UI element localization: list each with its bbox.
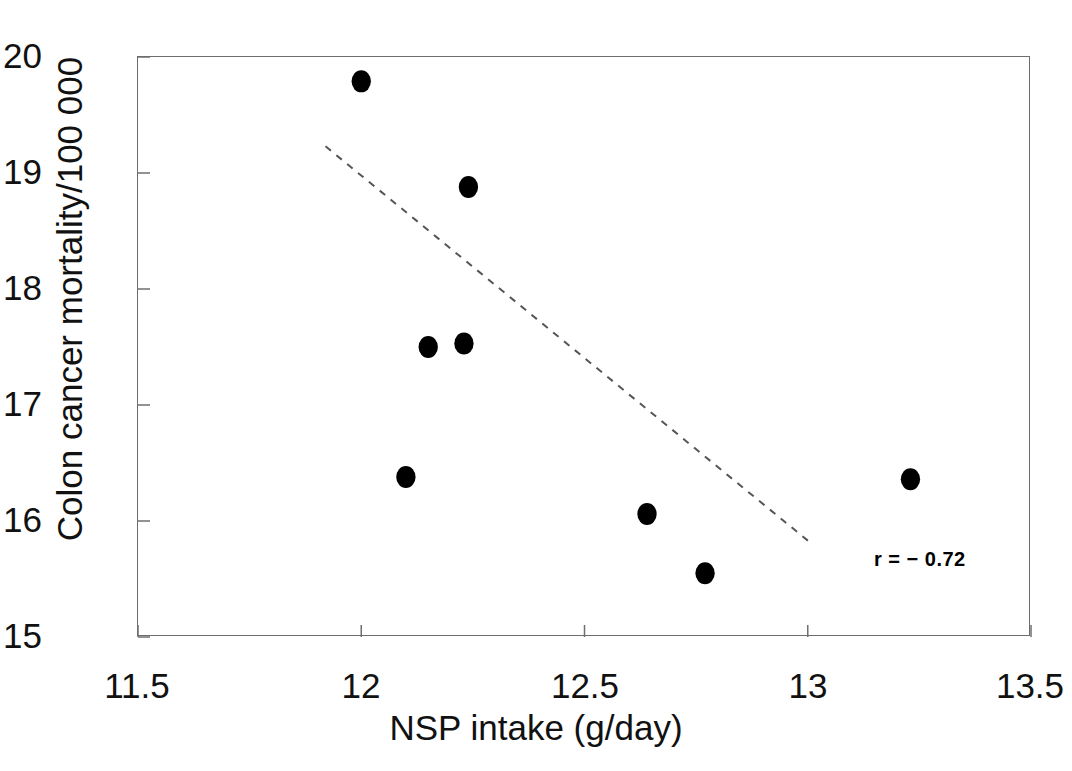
ytick-label-18: 18 <box>0 270 42 305</box>
data-point <box>419 336 438 358</box>
data-point <box>454 333 473 355</box>
ytick-label-15: 15 <box>0 618 42 653</box>
xtick-label-12: 12 <box>281 668 441 703</box>
ytick-label-17: 17 <box>0 386 42 421</box>
xtick-label-13: 13 <box>728 668 888 703</box>
data-point <box>637 503 656 525</box>
ytick-label-20: 20 <box>0 38 42 73</box>
xtick-label-12-5: 12.5 <box>505 668 665 703</box>
data-point <box>396 466 415 488</box>
x-axis-label: NSP intake (g/day) <box>0 710 1072 746</box>
ytick-label-16: 16 <box>0 502 42 537</box>
data-point <box>352 70 371 92</box>
scatter-plot-figure: 20 19 18 17 16 15 11.5 12 12.5 13 13.5 C… <box>0 0 1072 771</box>
data-point <box>695 562 714 584</box>
data-point <box>459 176 478 198</box>
trendline-dashed <box>326 146 813 544</box>
xtick-label-13-5: 13.5 <box>950 668 1072 703</box>
data-points <box>352 70 921 584</box>
xtick-label-11-5: 11.5 <box>57 668 217 703</box>
trendline <box>326 146 813 544</box>
data-point <box>901 468 920 490</box>
ytick-label-19: 19 <box>0 154 42 189</box>
correlation-annotation: r = − 0.72 <box>874 548 966 571</box>
y-axis-label: Colon cancer mortality/100 000 <box>51 19 89 579</box>
